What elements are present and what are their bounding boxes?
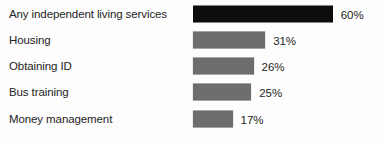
- bar-row: Money management 17%: [0, 106, 383, 132]
- bar-category-label: Money management: [9, 113, 112, 125]
- bar-fill: [193, 111, 233, 128]
- bar-track: 31%: [193, 32, 296, 49]
- bar-fill: [193, 84, 251, 101]
- bar-row: Obtaining ID 26%: [0, 53, 383, 79]
- bar-value-label: 26%: [262, 60, 285, 72]
- bar-value-label: 25%: [259, 86, 282, 98]
- bar-row: Bus training 25%: [0, 79, 383, 105]
- bar-row: Housing 31%: [0, 27, 383, 53]
- bar-category-label: Bus training: [9, 86, 69, 98]
- bar-value-label: 31%: [273, 34, 296, 46]
- bar-category-label: Obtaining ID: [9, 60, 72, 72]
- bar-value-label: 17%: [241, 113, 264, 125]
- bar-fill: [193, 32, 265, 49]
- bar-fill: [193, 6, 333, 23]
- bar-value-label: 60%: [341, 8, 364, 20]
- bar-category-label: Housing: [9, 34, 51, 46]
- bar-track: 17%: [193, 111, 263, 128]
- horizontal-bar-chart: Any independent living services 60% Hous…: [0, 0, 383, 144]
- bar-fill: [193, 58, 254, 75]
- bar-category-label: Any independent living services: [9, 8, 167, 20]
- bar-track: 25%: [193, 84, 282, 101]
- bar-track: 26%: [193, 58, 284, 75]
- bar-track: 60%: [193, 6, 364, 23]
- bar-row: Any independent living services 60%: [0, 1, 383, 27]
